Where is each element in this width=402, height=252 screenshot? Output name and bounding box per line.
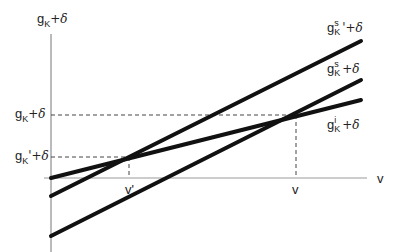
- label-rest: '+δ: [28, 149, 49, 163]
- label-sub: K: [334, 28, 340, 37]
- x-tick-v: v: [292, 183, 299, 196]
- label-rest: +δ: [342, 62, 359, 76]
- label-rest: +δ: [342, 118, 359, 132]
- label-rest: +δ: [50, 12, 67, 26]
- label-gKi: giK+δ: [327, 118, 360, 132]
- line-gKi: [51, 100, 361, 178]
- label-sub: K: [334, 125, 340, 134]
- line-gKs-prime: [51, 41, 361, 196]
- label-gKs: gsK+δ: [327, 62, 360, 76]
- label-gKs-prime: gsK'+δ: [327, 21, 363, 35]
- x-tick-v-prime: v': [125, 183, 134, 196]
- label-g: g: [327, 20, 334, 35]
- label-rest: '+δ: [342, 21, 363, 35]
- label-rest: +δ: [28, 107, 45, 121]
- label-g: g: [327, 61, 334, 76]
- y-axis-label: gK+δ: [37, 12, 68, 29]
- y-tick-gK: gK+δ: [15, 107, 46, 124]
- y-tick-gK-prime: gK'+δ: [15, 149, 49, 166]
- label-sub: K: [334, 69, 340, 78]
- line-gKs: [51, 80, 361, 236]
- label-g: g: [327, 117, 334, 132]
- x-axis-label: v: [377, 172, 384, 185]
